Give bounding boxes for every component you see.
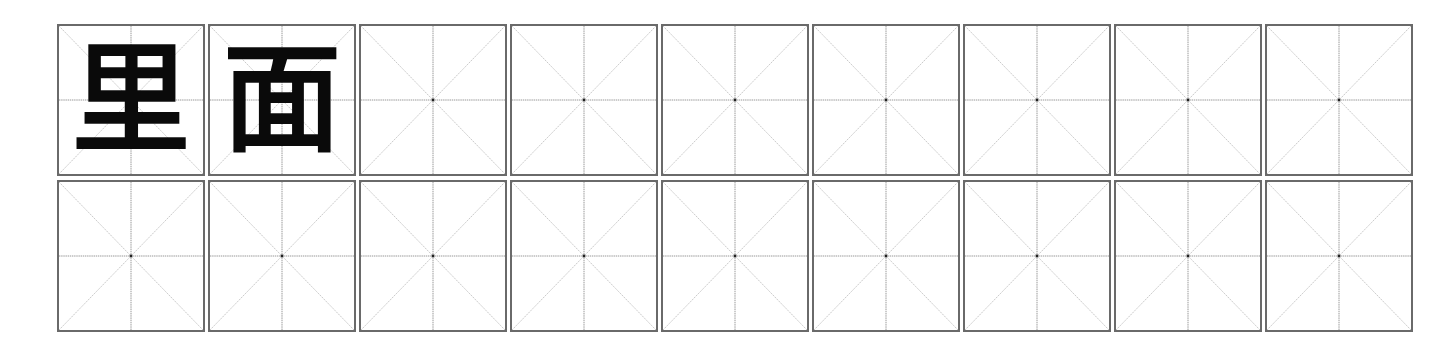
grid-cell <box>208 180 356 332</box>
grid-cell <box>812 180 960 332</box>
grid-cell <box>661 24 809 176</box>
grid-row <box>55 179 1418 335</box>
grid-cell <box>963 24 1111 176</box>
grid-character <box>512 26 656 174</box>
grid-character <box>1267 26 1411 174</box>
grid-character <box>361 26 505 174</box>
grid-character <box>1267 182 1411 330</box>
grid-cell <box>510 24 658 176</box>
grid-cell <box>359 180 507 332</box>
grid-character <box>965 182 1109 330</box>
grid-cell <box>661 180 809 332</box>
grid-character: 里 <box>59 26 203 174</box>
grid-cell <box>57 180 205 332</box>
grid-cell <box>1265 24 1413 176</box>
grid-cell <box>812 24 960 176</box>
grid-character <box>1116 182 1260 330</box>
grid-cell <box>1114 24 1262 176</box>
grid-cell <box>359 24 507 176</box>
grid-character <box>512 182 656 330</box>
grid-cell: 里 <box>57 24 205 176</box>
grid-cell <box>963 180 1111 332</box>
grid-character <box>361 182 505 330</box>
grid-character <box>663 182 807 330</box>
grid-character <box>1116 26 1260 174</box>
grid-cell <box>1114 180 1262 332</box>
grid-character <box>814 182 958 330</box>
grid-row: 里 面 <box>55 23 1418 179</box>
grid-character <box>965 26 1109 174</box>
grid-character <box>59 182 203 330</box>
grid-cell <box>510 180 658 332</box>
grid-character: 面 <box>210 26 354 174</box>
grid-cell: 面 <box>208 24 356 176</box>
grid-character <box>663 26 807 174</box>
grid-cell <box>1265 180 1413 332</box>
grid-character <box>814 26 958 174</box>
grid-character <box>210 182 354 330</box>
practice-grid-sheet: 里 面 <box>55 23 1418 336</box>
